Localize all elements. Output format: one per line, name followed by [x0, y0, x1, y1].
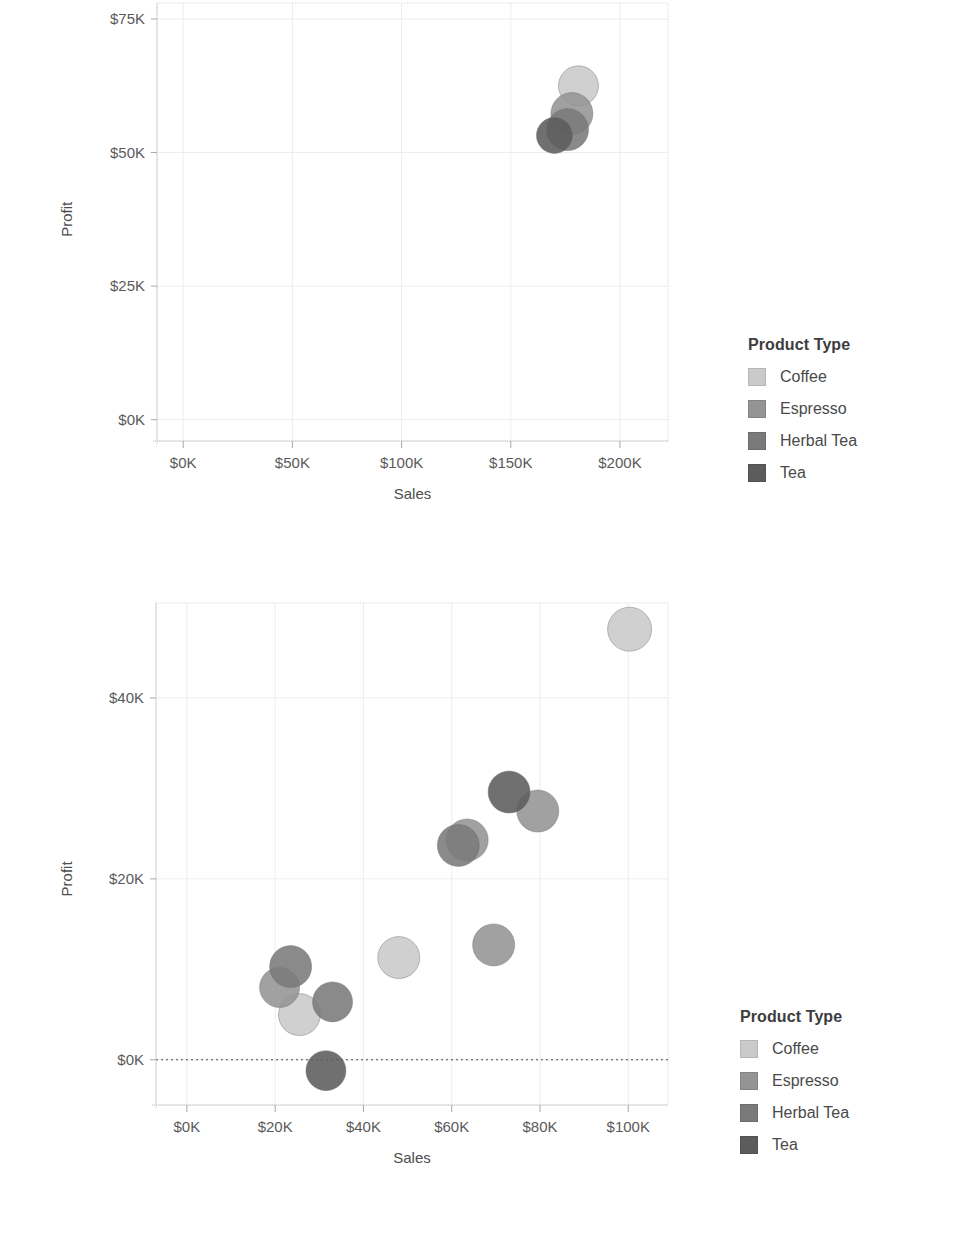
x-tick-label: $100K	[380, 454, 423, 471]
data-point-herbal-tea[interactable]	[270, 946, 312, 988]
legend-item-tea[interactable]: Tea	[740, 1129, 849, 1161]
scatter-chart-bottom-panel: $0K$20K$40K$0K$20K$40K$60K$80K$100KSales…	[0, 580, 700, 1200]
y-axis-title: Profit	[58, 861, 75, 897]
legend-swatch-tea	[740, 1136, 758, 1154]
x-axis-title: Sales	[393, 1149, 431, 1166]
y-tick-label: $0K	[117, 1051, 144, 1068]
legend-label-espresso: Espresso	[772, 1072, 839, 1090]
plot-frame	[157, 3, 668, 441]
legend-swatch-herbal-tea	[748, 432, 766, 450]
legend-label-tea: Tea	[780, 464, 806, 482]
y-tick-label: $0K	[118, 411, 145, 428]
legend-label-espresso: Espresso	[780, 400, 847, 418]
scatter-chart-top-panel: $0K$25K$50K$75K$0K$50K$100K$150K$200KSal…	[0, 0, 700, 520]
x-tick-label: $0K	[174, 1118, 201, 1135]
x-axis-title: Sales	[394, 485, 432, 502]
legend-item-tea[interactable]: Tea	[748, 457, 857, 489]
legend-label-tea: Tea	[772, 1136, 798, 1154]
legend-label-coffee: Coffee	[780, 368, 827, 386]
legend-item-herbal-tea[interactable]: Herbal Tea	[740, 1097, 849, 1129]
legend-item-herbal-tea[interactable]: Herbal Tea	[748, 425, 857, 457]
scatter-plot-top[interactable]: $0K$25K$50K$75K$0K$50K$100K$150K$200KSal…	[0, 0, 700, 520]
legend-label-herbal-tea: Herbal Tea	[780, 432, 857, 450]
data-point-espresso[interactable]	[473, 924, 515, 966]
x-tick-label: $100K	[607, 1118, 650, 1135]
y-tick-label: $75K	[110, 10, 145, 27]
legend-title: Product Type	[748, 336, 857, 354]
legend-title: Product Type	[740, 1008, 849, 1026]
legend-swatch-coffee	[748, 368, 766, 386]
legend-swatch-tea	[748, 464, 766, 482]
x-tick-label: $80K	[522, 1118, 557, 1135]
plot-frame	[156, 603, 668, 1105]
legend-top: Product Type Coffee Espresso Herbal Tea …	[748, 336, 857, 489]
data-point-herbal-tea[interactable]	[313, 982, 353, 1022]
data-point-tea[interactable]	[306, 1051, 346, 1091]
data-point-tea[interactable]	[536, 117, 572, 153]
legend-item-espresso[interactable]: Espresso	[740, 1065, 849, 1097]
scatter-plot-bottom[interactable]: $0K$20K$40K$0K$20K$40K$60K$80K$100KSales…	[0, 580, 700, 1200]
y-tick-label: $50K	[110, 144, 145, 161]
y-axis-title: Profit	[58, 201, 75, 237]
data-point-tea[interactable]	[488, 771, 530, 813]
x-tick-label: $60K	[434, 1118, 469, 1135]
legend-swatch-espresso	[748, 400, 766, 418]
legend-swatch-herbal-tea	[740, 1104, 758, 1122]
x-tick-label: $40K	[346, 1118, 381, 1135]
y-tick-label: $25K	[110, 277, 145, 294]
data-point-coffee[interactable]	[608, 607, 652, 651]
legend-swatch-coffee	[740, 1040, 758, 1058]
data-point-herbal-tea[interactable]	[437, 824, 479, 866]
legend-label-coffee: Coffee	[772, 1040, 819, 1058]
legend-item-coffee[interactable]: Coffee	[748, 361, 857, 393]
y-tick-label: $40K	[109, 689, 144, 706]
y-tick-label: $20K	[109, 870, 144, 887]
x-tick-label: $50K	[275, 454, 310, 471]
legend-item-espresso[interactable]: Espresso	[748, 393, 857, 425]
legend-swatch-espresso	[740, 1072, 758, 1090]
legend-label-herbal-tea: Herbal Tea	[772, 1104, 849, 1122]
x-tick-label: $150K	[489, 454, 532, 471]
x-tick-label: $200K	[598, 454, 641, 471]
legend-item-coffee[interactable]: Coffee	[740, 1033, 849, 1065]
x-tick-label: $20K	[258, 1118, 293, 1135]
legend-bottom: Product Type Coffee Espresso Herbal Tea …	[740, 1008, 849, 1161]
x-tick-label: $0K	[170, 454, 197, 471]
data-point-coffee[interactable]	[378, 937, 420, 979]
